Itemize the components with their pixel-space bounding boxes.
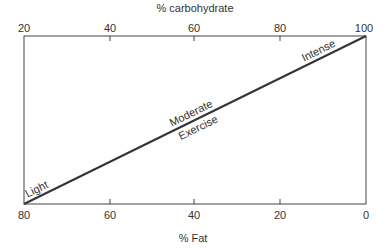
- bottom-tick-label: 60: [104, 209, 116, 221]
- bottom-tick-label: 80: [18, 209, 30, 221]
- top-ticks: [110, 36, 280, 41]
- bottom-ticks: [110, 199, 280, 204]
- bottom-axis-title: % Fat: [179, 232, 208, 244]
- top-axis-title: % carbohydrate: [156, 2, 233, 14]
- top-tick-label: 80: [274, 22, 286, 34]
- top-tick-label: 20: [18, 22, 30, 34]
- top-tick-label: 100: [355, 22, 373, 34]
- top-tick-label: 60: [188, 22, 200, 34]
- annotation-light: Light: [23, 178, 50, 199]
- bottom-tick-label: 20: [274, 209, 286, 221]
- fuel-use-chart: % carbohydrate 20 40 60 80 100 Light Mod…: [0, 0, 390, 248]
- intensity-line: [24, 36, 366, 204]
- bottom-tick-label: 0: [363, 209, 369, 221]
- bottom-tick-label: 40: [188, 209, 200, 221]
- top-tick-label: 40: [104, 22, 116, 34]
